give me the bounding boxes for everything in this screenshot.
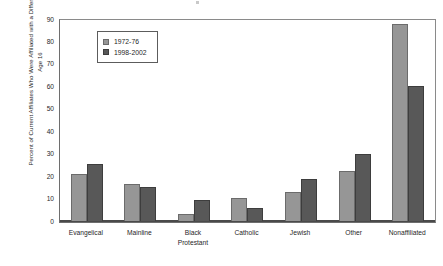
y-axis-tick-label: 50	[37, 105, 54, 112]
x-axis-category-label: Nonaffiliated	[380, 228, 434, 238]
x-axis-category-labels: EvangelicalMainlineBlack ProtestantCatho…	[59, 228, 436, 258]
x-axis-category-label: Other	[327, 228, 381, 238]
legend-label: 1972-76	[114, 38, 139, 45]
bar	[408, 86, 424, 221]
bar-group	[381, 19, 435, 221]
chart-legend: 1972-761998-2002	[97, 31, 158, 63]
bar-group	[328, 19, 382, 221]
bar	[339, 171, 355, 221]
bar	[392, 24, 408, 222]
bar-chart-figure: Percent of Current Affiliates Who Were A…	[0, 0, 443, 266]
legend-entry: 1998-2002	[103, 47, 147, 57]
y-axis-tick-label: 60	[37, 83, 54, 90]
dark-gray-swatch-icon	[103, 49, 109, 55]
legend-label: 1998-2002	[114, 49, 147, 56]
bar	[194, 200, 210, 221]
x-axis-category-label: Catholic	[220, 228, 274, 238]
y-axis-tick-label: 80	[37, 38, 54, 45]
bar-group	[221, 19, 275, 221]
y-axis-tick-label: 20	[37, 173, 54, 180]
bar	[231, 198, 247, 221]
bar	[124, 184, 140, 221]
y-axis-tick-label: 30	[37, 150, 54, 157]
scan-artifact-speck	[196, 1, 199, 4]
y-axis-tick-label: 70	[37, 60, 54, 67]
x-axis-category-label: Black Protestant	[166, 228, 220, 247]
bar	[140, 187, 156, 221]
bar	[247, 208, 263, 221]
y-axis-tick-label: 0	[37, 218, 54, 225]
y-axis-tick-label: 10	[37, 195, 54, 202]
y-axis-tick-label: 40	[37, 128, 54, 135]
light-gray-swatch-icon	[103, 39, 109, 45]
x-axis-category-label: Mainline	[113, 228, 167, 238]
x-axis-category-label: Evangelical	[59, 228, 113, 238]
bar	[178, 214, 194, 221]
legend-entry: 1972-76	[103, 37, 147, 47]
bar	[71, 174, 87, 221]
bar	[301, 179, 317, 221]
bar	[355, 154, 371, 221]
y-axis-tick-labels: 0102030405060708090	[37, 13, 54, 229]
bar	[87, 164, 103, 221]
x-axis-category-label: Jewish	[273, 228, 327, 238]
y-axis-tick-label: 90	[37, 16, 54, 23]
bar-group	[274, 19, 328, 221]
bar	[285, 192, 301, 221]
bar-group	[167, 19, 221, 221]
